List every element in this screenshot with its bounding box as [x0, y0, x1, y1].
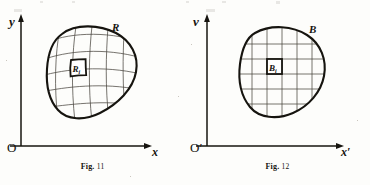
fig-11-caption-prefix: Fig. — [81, 162, 95, 171]
fig-11-axes — [10, 14, 152, 149]
fig-12-caption: Fig. 12 — [185, 162, 370, 171]
fig-11-origin-label: O — [7, 140, 16, 155]
fig-12-origin-label: O′ — [190, 140, 202, 155]
fig-12-drawing: v x′ O′ B Bi — [185, 0, 370, 185]
fig-11-region-label: R — [111, 21, 119, 33]
figure-fig-12: v x′ O′ B Bi Fig. 12 — [185, 0, 370, 185]
fig-12-vertical-axis-arrowhead — [204, 14, 210, 22]
fig-12-cell-label-base: B — [268, 63, 275, 73]
figure-fig-11: y x O R Ri Fig. 11 — [0, 0, 185, 185]
fig-11-cell-label-base: R — [72, 64, 79, 74]
fig-11-caption: Fig. 11 — [0, 162, 185, 171]
fig-11-vertical-axis-label: y — [7, 14, 15, 29]
fig-12-vertical-axis-label: v — [193, 14, 199, 29]
fig-11-horizontal-axis-label: x — [151, 145, 158, 159]
fig-12-caption-number: 12 — [282, 162, 290, 171]
fig-11-drawing: y x O R Ri — [0, 0, 185, 185]
fig-12-caption-prefix: Fig. — [265, 162, 279, 171]
fig-11-vertical-axis-arrowhead — [18, 14, 24, 22]
fig-12-region-label: B — [308, 23, 316, 35]
fig-11-caption-number: 11 — [97, 162, 105, 171]
figure-page: y x O R Ri Fig. 11 — [0, 0, 370, 185]
fig-12-horizontal-axis-label: x′ — [340, 145, 350, 159]
fig-11-horizontal-axis-arrowhead — [144, 143, 152, 149]
